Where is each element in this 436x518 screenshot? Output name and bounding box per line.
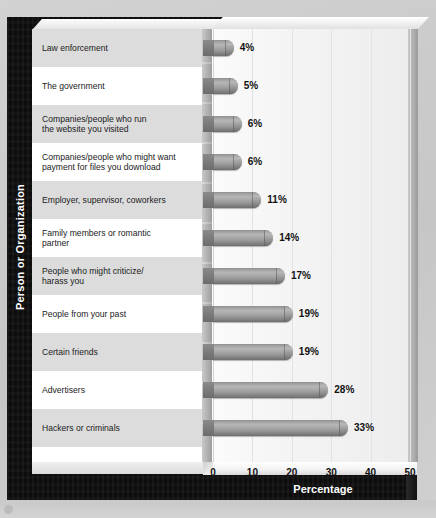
label-panel-base xyxy=(32,462,212,474)
bar-value-label: 33% xyxy=(354,420,374,436)
plot-area: 4%5%6%6%11%14%17%19%19%28%33% xyxy=(212,29,408,462)
x-tick-label: 10 xyxy=(247,467,258,478)
bar-value-label: 4% xyxy=(240,40,254,56)
bar xyxy=(213,230,273,246)
chart-figure: Person or Organization Law enforcementTh… xyxy=(0,0,436,518)
bar xyxy=(213,78,238,94)
category-row: People from your past xyxy=(32,295,202,333)
bar xyxy=(213,154,242,170)
y-axis-title: Person or Organization xyxy=(8,17,32,477)
x-tick-label: 40 xyxy=(365,467,376,478)
gridline xyxy=(410,29,411,462)
bar xyxy=(213,306,293,322)
bar-value-label: 19% xyxy=(299,306,319,322)
category-row: Companies/people who might want payment … xyxy=(32,143,202,181)
category-row: Family members or romantic partner xyxy=(32,219,202,257)
bar xyxy=(213,344,293,360)
bar-value-label: 14% xyxy=(279,230,299,246)
category-label: The government xyxy=(32,81,109,92)
bar-value-label: 6% xyxy=(248,116,262,132)
bar-value-label: 6% xyxy=(248,154,262,170)
x-tick-label: 20 xyxy=(286,467,297,478)
category-label: People from your past xyxy=(32,309,130,320)
x-tick-label: 0 xyxy=(210,467,216,478)
x-tick-label: 50 xyxy=(404,467,415,478)
category-row: Companies/people who run the website you… xyxy=(32,105,202,143)
category-label: Certain friends xyxy=(32,347,102,358)
category-row: Hackers or criminals xyxy=(32,409,202,447)
bar-value-label: 28% xyxy=(334,382,354,398)
corner-marker xyxy=(4,505,13,514)
outer-bottom-strip xyxy=(0,500,436,518)
category-row: People who might criticize/ harass you xyxy=(32,257,202,295)
category-label: Companies/people who might want payment … xyxy=(32,152,180,173)
bar-series: 4%5%6%6%11%14%17%19%19%28%33% xyxy=(212,29,408,462)
bar xyxy=(213,382,328,398)
category-label: Family members or romantic partner xyxy=(32,228,155,249)
bar-value-label: 5% xyxy=(244,78,258,94)
category-row: The government xyxy=(32,67,202,105)
category-row: Employer, supervisor, coworkers xyxy=(32,181,202,219)
x-tick-label: 30 xyxy=(326,467,337,478)
bar-value-label: 17% xyxy=(291,268,311,284)
bar xyxy=(213,192,261,208)
bar-value-label: 11% xyxy=(267,192,286,208)
category-label: Hackers or criminals xyxy=(32,423,124,434)
bar xyxy=(213,40,234,56)
x-axis-title: Percentage xyxy=(233,479,413,499)
bar xyxy=(213,116,242,132)
plot-panel-top-bevel xyxy=(212,17,429,29)
category-row: Advertisers xyxy=(32,371,202,409)
bar xyxy=(213,268,285,284)
category-label: Law enforcement xyxy=(32,43,112,54)
bar xyxy=(213,420,348,436)
category-label-panel: Law enforcementThe governmentCompanies/p… xyxy=(32,29,202,462)
bar-value-label: 19% xyxy=(299,344,319,360)
y-axis-title-text: Person or Organization xyxy=(14,184,26,310)
category-label: People who might criticize/ harass you xyxy=(32,266,148,287)
category-row: Certain friends xyxy=(32,333,202,371)
category-label: Companies/people who run the website you… xyxy=(32,114,151,135)
category-row: Law enforcement xyxy=(32,29,202,67)
x-axis-floor xyxy=(203,462,417,475)
category-label: Advertisers xyxy=(32,385,89,396)
category-label: Employer, supervisor, coworkers xyxy=(32,195,170,206)
